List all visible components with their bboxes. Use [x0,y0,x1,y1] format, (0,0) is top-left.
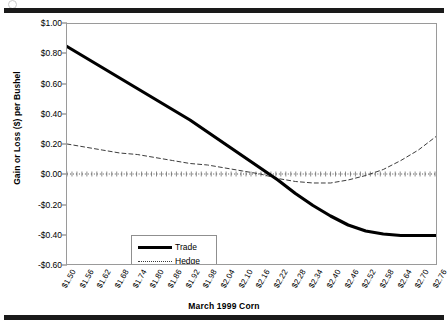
y-tick-label: $0.00 [16,169,62,179]
x-tick-label: $2.76 [431,268,448,290]
figure-container: Gain or Loss ($) per Bushel $1.00$0.80$0… [0,0,448,328]
x-tick-label: $2.58 [378,268,396,290]
legend-swatch-dotted-icon [137,256,173,265]
x-tick-label: $1.80 [148,268,166,290]
y-axis-title-text: Gain or Loss ($) per Bushel [12,48,22,208]
x-tick-label: $1.62 [95,268,113,290]
legend-item-hedge: Hedge [137,254,211,265]
y-axis-title: Gain or Loss ($) per Bushel [0,0,8,60]
y-tick-label: -$0.40 [16,230,62,240]
x-tick-label: $2.22 [272,268,290,290]
x-tick-label: $2.70 [413,268,431,290]
x-tick-label: $2.10 [237,268,255,290]
y-tick-label: $0.60 [16,79,62,89]
y-tick-label: -$0.60 [16,260,62,270]
x-tick-label: $1.50 [60,268,78,290]
x-tick-label: $2.16 [254,268,272,290]
series-line-trade [67,47,436,236]
x-tick-label: $2.64 [396,268,414,290]
x-tick-label: $2.28 [290,268,308,290]
legend-label-hedge: Hedge [173,256,200,265]
x-tick-label: $2.04 [219,268,237,290]
x-tick-label: $2.46 [343,268,361,290]
series-canvas [67,24,436,264]
x-tick-label: $1.68 [113,268,131,290]
x-tick-label: $2.40 [325,268,343,290]
y-tick-label: $0.40 [16,109,62,119]
x-tick-label: $2.52 [360,268,378,290]
zero-line-hatch [67,172,435,177]
x-tick-label: $1.56 [78,268,96,290]
x-tick-label: $1.86 [166,268,184,290]
y-tick-label: $0.20 [16,139,62,149]
legend-item-trade: Trade [137,240,211,254]
x-tick-label: $1.92 [184,268,202,290]
top-rule [4,8,444,13]
legend-swatch-solid-icon [137,242,173,252]
x-tick-label: $1.74 [131,268,149,290]
x-tick-label: $1.98 [201,268,219,290]
y-tick-label: $0.80 [16,48,62,58]
y-tick-label: $1.00 [16,18,62,28]
legend-label-trade: Trade [173,242,197,252]
bottom-rule [4,315,444,320]
x-tick-label: $2.34 [307,268,325,290]
legend: Trade Hedge [131,235,217,265]
y-tick-label: -$0.20 [16,200,62,210]
x-axis-title: March 1999 Corn [0,301,448,311]
plot-area: Trade Hedge [66,23,437,265]
